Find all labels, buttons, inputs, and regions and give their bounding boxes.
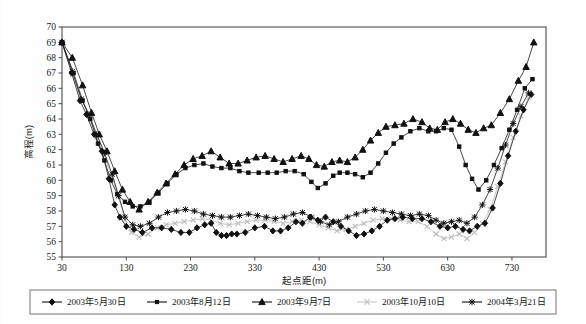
x-tick-label: 30 <box>57 263 67 273</box>
y-tick-label: 63 <box>47 130 57 140</box>
data-point-square <box>485 179 488 182</box>
y-tick-label: 69 <box>47 38 57 48</box>
data-point-square <box>409 130 412 133</box>
data-point-square <box>310 180 313 183</box>
data-point-square <box>324 182 327 185</box>
data-point-square <box>369 171 372 174</box>
y-tick-label: 68 <box>47 53 57 63</box>
y-tick-label: 59 <box>47 191 57 201</box>
data-point-square <box>515 108 518 111</box>
y-tick-label: 56 <box>47 237 57 247</box>
data-point-square <box>257 171 260 174</box>
data-point-square <box>247 171 250 174</box>
y-tick-label: 64 <box>47 114 57 124</box>
x-axis: 30130230330430530630730起点距(m) <box>57 257 519 286</box>
data-point-square <box>418 127 421 130</box>
data-point-asterisk <box>164 209 170 215</box>
data-point-asterisk <box>227 214 233 220</box>
data-point-square <box>275 171 278 174</box>
legend-label: 2003年10月10日 <box>382 296 445 307</box>
x-tick-label: 430 <box>312 263 327 273</box>
data-point-asterisk <box>218 214 224 220</box>
data-point-asterisk <box>344 214 350 220</box>
data-point-asterisk <box>137 223 143 229</box>
x-tick-label: 230 <box>183 263 198 273</box>
y-axis-title: 高程(m) <box>23 125 34 159</box>
x-axis-title: 起点距(m) <box>282 275 326 286</box>
data-point-square <box>155 300 158 303</box>
data-point-square <box>338 171 341 174</box>
data-point-asterisk <box>456 217 462 223</box>
data-point-square <box>293 169 296 172</box>
data-point-asterisk <box>389 209 395 215</box>
data-point-square <box>500 146 503 149</box>
data-point-square <box>211 165 214 168</box>
x-tick-label: 330 <box>248 263 263 273</box>
y-tick-label: 62 <box>47 145 57 155</box>
data-point-square <box>470 177 473 180</box>
data-point-asterisk <box>173 208 179 214</box>
data-point-asterisk <box>209 213 215 219</box>
y-axis: 55565758596061626364656667686970高程(m) <box>23 22 62 262</box>
data-point-asterisk <box>487 186 493 192</box>
data-point-asterisk <box>362 208 368 214</box>
data-point-asterisk <box>479 202 485 208</box>
data-point-square <box>477 188 480 191</box>
data-point-asterisk <box>191 208 197 214</box>
y-tick-label: 58 <box>47 206 57 216</box>
data-point-square <box>384 151 387 154</box>
x-tick-label: 630 <box>441 263 456 273</box>
data-point-square <box>458 145 461 148</box>
data-point-asterisk <box>495 165 501 171</box>
data-point-square <box>361 176 364 179</box>
data-point-square <box>442 127 445 130</box>
x-tick-label: 530 <box>376 263 391 273</box>
data-point-square <box>492 163 495 166</box>
data-point-square <box>193 163 196 166</box>
data-point-asterisk <box>448 219 454 225</box>
data-point-asterisk <box>472 214 478 220</box>
data-point-asterisk <box>155 214 161 220</box>
data-point-square <box>531 77 534 80</box>
legend-label: 2004年3月21日 <box>487 296 546 307</box>
data-point-square <box>392 142 395 145</box>
y-tick-label: 66 <box>47 84 57 94</box>
data-point-asterisk <box>425 213 431 219</box>
data-point-asterisk <box>115 193 121 199</box>
data-point-square <box>450 128 453 131</box>
data-point-square <box>302 173 305 176</box>
legend-label: 2003年9月7日 <box>277 296 331 307</box>
data-point-square <box>123 200 126 203</box>
data-point-asterisk <box>290 211 296 217</box>
elevation-profile-chart: 55565758596061626364656667686970高程(m)301… <box>0 0 586 324</box>
y-tick-label: 65 <box>47 99 57 109</box>
data-point-square <box>523 87 526 90</box>
data-point-square <box>353 173 356 176</box>
data-point-asterisk <box>236 213 242 219</box>
data-point-asterisk <box>502 142 508 148</box>
chart-svg: 55565758596061626364656667686970高程(m)301… <box>0 0 586 324</box>
y-tick-label: 61 <box>47 160 57 170</box>
data-point-square <box>238 169 241 172</box>
y-tick-label: 70 <box>47 22 57 32</box>
data-point-square <box>229 166 232 169</box>
data-point-square <box>220 166 223 169</box>
data-point-asterisk <box>299 209 305 215</box>
y-tick-label: 67 <box>47 68 57 78</box>
data-point-square <box>332 174 335 177</box>
data-point-asterisk <box>433 217 439 223</box>
data-point-asterisk <box>254 213 260 219</box>
data-point-asterisk <box>353 211 359 217</box>
data-point-asterisk <box>245 211 251 217</box>
y-tick-label: 55 <box>47 252 57 262</box>
y-tick-label: 60 <box>47 176 57 186</box>
x-tick-label: 130 <box>119 263 134 273</box>
data-point-asterisk <box>182 206 188 212</box>
data-point-square <box>400 136 403 139</box>
data-point-square <box>464 163 467 166</box>
y-tick-label: 57 <box>47 222 57 232</box>
data-point-asterisk <box>371 206 377 212</box>
data-point-asterisk <box>281 214 287 220</box>
data-point-square <box>346 171 349 174</box>
data-point-square <box>316 186 319 189</box>
